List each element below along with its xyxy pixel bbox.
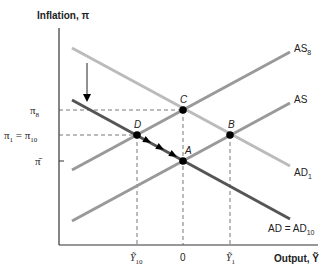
x-tick-y10: Ỹ10 xyxy=(130,252,143,266)
x-tick-y1: Ỹ1 xyxy=(226,252,236,266)
y-tick-pi8: π8 xyxy=(30,104,40,119)
diagram-canvas: Inflation, π Output, Ỹ A B C D AS8 AS AD… xyxy=(0,0,333,277)
point-a-label: A xyxy=(184,145,192,156)
adjustment-path-arrows xyxy=(142,136,178,160)
point-d-label: D xyxy=(134,119,141,130)
y-axis-title: Inflation, π xyxy=(37,10,89,21)
x-axis-title: Output, Ỹ xyxy=(274,252,319,264)
ad-as-diagram: Inflation, π Output, Ỹ A B C D AS8 AS AD… xyxy=(0,0,333,277)
y-tick-pi-bar: π̄ xyxy=(35,155,43,167)
point-a xyxy=(179,157,187,165)
point-d xyxy=(133,131,141,139)
point-b xyxy=(226,131,234,139)
x-tick-zero: 0 xyxy=(180,252,186,263)
point-c xyxy=(179,106,187,114)
as-label: AS xyxy=(294,94,308,105)
point-b-label: B xyxy=(228,119,235,130)
y-tick-pi1-pi10: π1 = π10 xyxy=(4,129,38,144)
equilibrium-points xyxy=(133,106,234,165)
point-c-label: C xyxy=(180,94,188,105)
ad-label: AD = AD10 xyxy=(268,223,315,236)
ad1-label: AD1 xyxy=(294,167,312,180)
as8-label: AS8 xyxy=(294,43,311,56)
